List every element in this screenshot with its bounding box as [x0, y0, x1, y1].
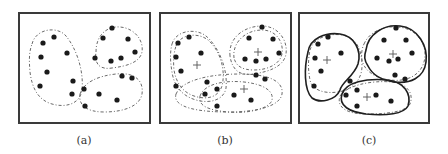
- data-point: [40, 40, 45, 45]
- data-point: [119, 73, 124, 78]
- data-point: [409, 50, 414, 55]
- clustering-figure: (a) (b) (c): [0, 0, 448, 154]
- data-point: [108, 58, 113, 63]
- data-point: [242, 56, 247, 61]
- data-point: [315, 41, 320, 46]
- data-point: [354, 87, 359, 92]
- panel-c-label: (c): [362, 134, 377, 147]
- data-point: [129, 75, 134, 80]
- data-point: [100, 35, 105, 40]
- data-point: [69, 91, 74, 96]
- data-point: [214, 103, 219, 108]
- data-point: [381, 37, 386, 42]
- data-point: [186, 34, 191, 39]
- data-point: [178, 68, 183, 73]
- data-point: [311, 83, 316, 88]
- data-point: [354, 103, 359, 108]
- data-point: [118, 55, 123, 60]
- data-point: [253, 72, 258, 77]
- data-point: [338, 50, 343, 55]
- data-point: [263, 56, 268, 61]
- panel-b-label: (b): [217, 134, 233, 147]
- data-point: [51, 34, 56, 39]
- data-point: [82, 103, 87, 108]
- data-point: [114, 97, 119, 102]
- data-point: [312, 55, 317, 60]
- data-point: [96, 91, 101, 96]
- data-point: [386, 58, 391, 63]
- data-point: [325, 34, 330, 39]
- data-point: [81, 86, 86, 91]
- panel-b-frame: [160, 13, 291, 123]
- data-point: [125, 36, 130, 41]
- data-point: [343, 92, 348, 97]
- data-point: [347, 78, 352, 83]
- data-point: [276, 50, 281, 55]
- data-point: [253, 58, 258, 63]
- data-point: [403, 37, 408, 42]
- data-point: [388, 98, 393, 103]
- data-point: [173, 83, 178, 88]
- data-point: [204, 79, 209, 84]
- data-point: [373, 92, 378, 97]
- data-point: [392, 72, 397, 77]
- data-point: [259, 24, 264, 29]
- data-point: [175, 40, 180, 45]
- data-point: [132, 49, 137, 54]
- data-point: [393, 25, 398, 30]
- data-point: [202, 91, 207, 96]
- panel-a: (a): [19, 13, 150, 147]
- data-point: [246, 35, 251, 40]
- data-point: [231, 92, 236, 97]
- panel-b: (b): [160, 13, 291, 147]
- data-point: [374, 55, 379, 60]
- data-point: [270, 36, 275, 41]
- panel-a-label: (a): [76, 134, 91, 147]
- data-point: [109, 25, 114, 30]
- data-point: [37, 83, 42, 88]
- data-point: [64, 50, 69, 55]
- data-point: [173, 54, 178, 59]
- panel-c: (c): [299, 13, 429, 147]
- data-point: [92, 55, 97, 60]
- data-point: [402, 76, 407, 81]
- data-point: [318, 68, 323, 73]
- data-point: [70, 78, 75, 83]
- data-point: [248, 97, 253, 102]
- data-point: [38, 54, 43, 59]
- data-point: [262, 76, 267, 81]
- data-point: [395, 56, 400, 61]
- data-point: [214, 86, 219, 91]
- data-point: [198, 50, 203, 55]
- data-point: [44, 69, 49, 74]
